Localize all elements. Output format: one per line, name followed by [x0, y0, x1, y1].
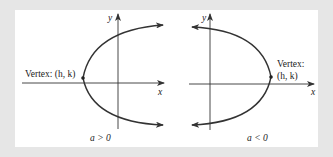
right-vertex-label-line1: Vertex:	[277, 60, 304, 70]
left-parabola-lower	[83, 78, 163, 125]
left-x-axis-label: x	[158, 88, 162, 98]
left-y-axis-label: y	[108, 14, 112, 24]
right-x-axis-label: x	[311, 88, 315, 98]
left-vertex-label: Vertex: (h, k)	[25, 70, 75, 80]
right-y-axis-label: y	[202, 14, 206, 24]
left-vertex-point	[81, 76, 85, 80]
left-parabola-upper	[83, 25, 163, 78]
left-caption: a > 0	[90, 134, 111, 144]
right-parabola-upper	[192, 27, 271, 77]
right-caption: a < 0	[247, 134, 268, 144]
right-vertex-label-line2: (h, k)	[277, 72, 298, 82]
right-vertex-point	[269, 75, 273, 79]
